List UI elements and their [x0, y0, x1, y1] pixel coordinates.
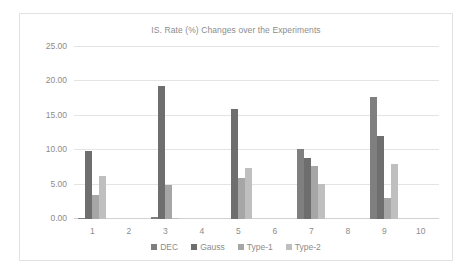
x-axis-tick-label: 8: [330, 226, 367, 236]
bar-group: 9: [366, 47, 403, 219]
bar-type-2: [172, 218, 179, 219]
y-axis-tick-label: 25.00: [46, 41, 67, 51]
bar-group: 2: [111, 47, 148, 219]
bar-gauss: [304, 158, 311, 219]
legend-label: Type-1: [247, 242, 273, 252]
bar-type-1: [165, 185, 172, 219]
legend-label: DEC: [160, 242, 178, 252]
bar-type-1: [92, 195, 99, 219]
legend-item-dec[interactable]: DEC: [151, 242, 178, 252]
y-axis-tick-label: 20.00: [46, 75, 67, 85]
legend-swatch-icon: [238, 244, 244, 250]
bar-type-2: [318, 184, 325, 219]
bar-group: 6: [257, 47, 294, 219]
bar-type-2: [391, 164, 398, 219]
bar-group: 1: [74, 47, 111, 219]
bar-type-2: [99, 176, 106, 219]
x-axis-tick-label: 4: [184, 226, 221, 236]
y-axis-tick-label: 5.00: [50, 179, 67, 189]
y-axis-tick-label: 15.00: [46, 110, 67, 120]
bar-gauss: [231, 109, 238, 219]
x-axis-tick-label: 1: [74, 226, 111, 236]
bar-group: 5: [220, 47, 257, 219]
legend-item-type-2[interactable]: Type-2: [286, 242, 321, 252]
bar-type-1: [384, 198, 391, 219]
legend-label: Type-2: [295, 242, 321, 252]
chart-legend: DECGaussType-1Type-2: [20, 242, 452, 252]
bar-group: 4: [184, 47, 221, 219]
bar-dec: [297, 149, 304, 219]
chart-title: IS. Rate (%) Changes over the Experiment…: [20, 25, 452, 35]
x-axis-tick-label: 7: [293, 226, 330, 236]
bar-series-layer: 12345678910: [74, 47, 439, 219]
bar-dec: [370, 97, 377, 219]
legend-swatch-icon: [191, 244, 197, 250]
bar-group: 10: [403, 47, 440, 219]
bar-type-1: [311, 166, 318, 219]
bar-dec: [151, 217, 158, 219]
bar-group: 7: [293, 47, 330, 219]
bar-gauss: [158, 86, 165, 219]
chart-container: IS. Rate (%) Changes over the Experiment…: [19, 13, 453, 261]
bar-gauss: [377, 136, 384, 219]
legend-swatch-icon: [151, 244, 157, 250]
bar-type-1: [238, 178, 245, 219]
legend-item-type-1[interactable]: Type-1: [238, 242, 273, 252]
bar-group: 3: [147, 47, 184, 219]
legend-item-gauss[interactable]: Gauss: [191, 242, 225, 252]
x-axis-tick-label: 2: [111, 226, 148, 236]
bar-group: 8: [330, 47, 367, 219]
y-axis-tick-label: 0.00: [50, 213, 67, 223]
x-axis-tick-label: 3: [147, 226, 184, 236]
y-axis-tick-label: 10.00: [46, 144, 67, 154]
x-axis-tick-label: 9: [366, 226, 403, 236]
legend-label: Gauss: [200, 242, 225, 252]
plot-area: 0.005.0010.0015.0020.0025.00 12345678910: [74, 47, 439, 219]
x-axis-tick-label: 6: [257, 226, 294, 236]
bar-dec: [78, 218, 85, 219]
legend-swatch-icon: [286, 244, 292, 250]
x-axis-tick-label: 10: [403, 226, 440, 236]
bar-gauss: [85, 151, 92, 219]
x-axis-tick-label: 5: [220, 226, 257, 236]
bar-type-2: [245, 168, 252, 219]
